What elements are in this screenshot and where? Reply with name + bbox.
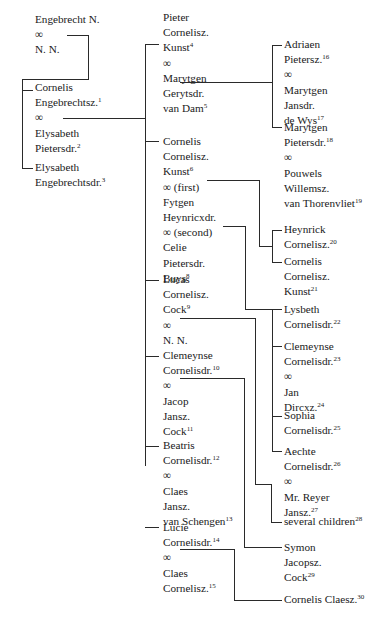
person-pieter-cornelisz: PieterCornelisz.Kunst4∞MarytgenGerytsdr.… [163,10,209,116]
connector-line [259,180,260,246]
person-line: Clemeynse [284,339,340,354]
person-line: Pietersz.16 [284,52,329,67]
connector-line [145,527,159,528]
footnote-marker: 25 [333,424,340,432]
person-line: Cock29 [284,570,322,585]
person-line: Gerytsdr. [163,86,209,101]
person-line: ∞ (first) [163,180,216,195]
connector-line [180,378,244,379]
person-line: ∞ (second) [163,225,216,240]
connector-line [271,484,272,522]
person-line: Cornelisz. [284,269,330,284]
person-line: Clemeynse [163,348,219,363]
footnote-marker: 23 [333,355,340,363]
person-line: Beatris [163,438,232,453]
footnote-marker: 22 [333,318,340,326]
connector-line [180,318,255,319]
person-line: Jan [284,385,340,400]
person-line: Cock9 [163,302,209,317]
footnote-marker: 11 [187,425,194,433]
person-lysbeth-cornelisdr: LysbethCornelisdr.22 [284,302,340,332]
person-line: Cornelis [163,134,216,149]
person-line: Claes [163,484,232,499]
person-line: Jansdr. [284,98,329,113]
connector-line [22,79,89,80]
person-aechte-cornelisdr: AechteCornelisdr.26∞Mr. ReyerJansz.27 [284,444,340,520]
person-line: Cornelisdr.22 [284,317,340,332]
person-line: Celie [163,240,216,255]
person-lucie-cornelisdr: LucieCornelisdr.14∞ClaesCornelisz.15 [163,520,219,596]
footnote-marker: 29 [308,571,315,579]
footnote-marker: 6 [190,165,194,173]
person-line: N. N. [35,42,100,57]
person-line: Mr. Reyer [284,490,340,505]
person-line: Pietersdr.2 [35,141,102,156]
footnote-marker: 30 [357,593,364,601]
footnote-marker: 21 [311,285,318,293]
person-line: Kunst6 [163,164,216,179]
connector-line [22,79,23,168]
footnote-marker: 26 [333,460,340,468]
connector-line [88,35,89,80]
person-line: Engebrechtsz.1 [35,95,102,110]
person-line: Marytgen [284,83,329,98]
connector-line [255,484,271,485]
person-line: Jacop [163,394,219,409]
connector-line [22,168,33,169]
connector-line [223,226,246,227]
person-line: Elysabeth [35,160,105,175]
footnote-marker: 18 [326,136,333,144]
person-line: Pietersdr. [163,256,216,271]
person-line: ∞ [284,369,340,384]
person-line: Marytgen [163,71,209,86]
person-line: Engebrecht N. [35,12,100,27]
person-line: Cornelisdr.12 [163,453,232,468]
person-line: Jacopsz. [284,555,322,570]
connector-line [272,262,282,263]
person-line: Engebrechtsdr.3 [35,175,105,190]
connector-line [145,141,159,142]
footnote-marker: 5 [204,102,208,110]
connector-line [272,230,282,231]
person-line: Pietersdr.18 [284,135,362,150]
person-line: Cornelisdr.10 [163,363,219,378]
person-line: Marytgen [284,120,362,135]
person-line: Cornelis [35,80,102,95]
person-beatris-cornelisdr: BeatrisCornelisdr.12∞ClaesJansz.van Sche… [163,438,232,529]
person-heynrick-cornelisz: HeynrickCornelisz.20 [284,222,337,252]
person-line: ∞ [163,550,219,565]
connector-line [244,378,245,547]
person-line: Cornelisdr.23 [284,354,340,369]
person-line: Cornelisz.15 [163,581,219,596]
person-line: Lucas [163,272,209,287]
connector-line [255,318,256,484]
person-line: Jansz. [163,409,219,424]
person-line: Adriaen [284,37,329,52]
connector-line [63,118,145,119]
footnote-marker: 27 [311,506,318,514]
person-line: Kunst21 [284,284,330,299]
person-line: Cornelisdr.26 [284,459,340,474]
footnote-marker: 19 [355,197,362,205]
person-cornelis-claesz: Cornelis Claesz.30 [284,592,364,607]
person-line: Willemsz. [284,181,362,196]
connector-line [272,230,273,262]
person-several-children: several children28 [284,514,362,529]
person-line: ∞ [163,318,209,333]
connector-line [271,522,282,523]
person-line: Pieter [163,10,209,25]
person-line: ∞ [284,67,329,82]
footnote-marker: 1 [98,96,102,104]
connector-line [244,547,282,548]
footnote-marker: 9 [187,303,191,311]
person-line: Symon [284,540,322,555]
person-line: ∞ [163,468,232,483]
connector-line [272,45,282,46]
person-line: several children28 [284,514,362,529]
person-line: ∞ [163,378,219,393]
connector-line [234,600,282,601]
person-line: Sophia [284,408,340,423]
person-line: Cock11 [163,424,219,439]
person-line: ∞ [284,150,362,165]
connector-line [145,356,159,357]
